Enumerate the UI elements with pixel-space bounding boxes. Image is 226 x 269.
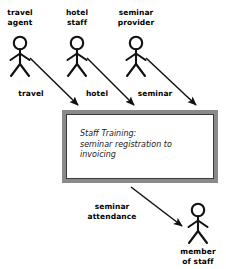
actor-label-hotel-staff: hotel staff <box>57 8 97 27</box>
actor-figure-member-of-staff <box>189 204 208 243</box>
flow-label-seminar: seminar <box>131 89 179 99</box>
context-diagram: travel agent hotel staff seminar provide… <box>0 0 226 269</box>
flow-label-hotel: hotel <box>77 89 117 99</box>
actor-figure-travel-agent <box>11 37 30 76</box>
actor-figure-seminar-provider <box>127 37 146 76</box>
actor-label-member-of-staff: member of staff <box>173 247 223 266</box>
flow-label-seminar-attendance: seminar attendance <box>81 202 143 221</box>
process-box: Staff Training: seminar registration to … <box>62 110 218 183</box>
process-box-text: Staff Training: seminar registration to … <box>80 129 208 161</box>
flow-label-travel: travel <box>8 89 54 99</box>
actor-label-travel-agent: travel agent <box>0 8 40 27</box>
actor-label-seminar-provider: seminar provider <box>111 8 161 27</box>
actor-figure-hotel-staff <box>68 37 87 76</box>
